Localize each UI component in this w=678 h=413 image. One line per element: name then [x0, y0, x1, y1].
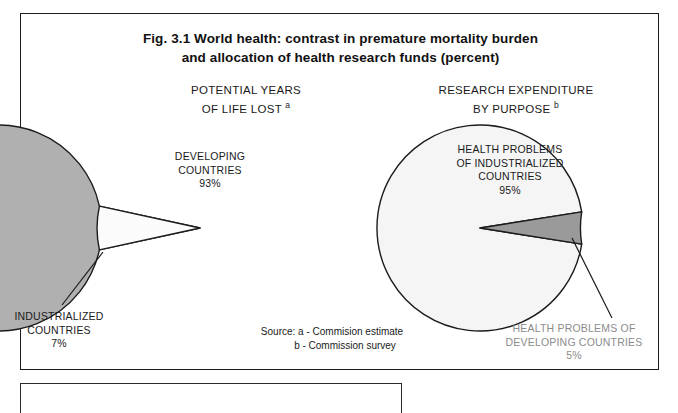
pie-label-developing-line-1: DEVELOPING	[140, 150, 280, 164]
secondary-frame-partial	[20, 383, 402, 413]
panel-heading-left-line-1: POTENTIAL YEARS	[131, 83, 361, 98]
callout-label-health-problems-developing: HEALTH PROBLEMS OF DEVELOPING COUNTRIES …	[480, 322, 668, 363]
panel-heading-left-line-2: OF LIFE LOST a	[131, 98, 361, 117]
panel-heading-research-expenditure-by-purpose: RESEARCH EXPENDITURE BY PURPOSE b	[391, 83, 641, 117]
pie-label-industrialized-health-line-2: OF INDUSTRIALIZED	[420, 157, 600, 171]
pie-label-developing-line-2: COUNTRIES	[140, 164, 280, 178]
callout-label-industrialized-countries: INDUSTRIALIZED COUNTRIES 7%	[0, 310, 118, 351]
callout-developing-health-line-1: HEALTH PROBLEMS OF	[480, 322, 668, 336]
figure-title: Fig. 3.1 World health: contrast in prema…	[21, 29, 660, 67]
pie-label-industrialized-health-line-3: COUNTRIES	[420, 170, 600, 184]
source-note-line-a: Source: a - Commision estimate	[232, 325, 432, 339]
panel-heading-right-line-2-text: BY PURPOSE	[473, 103, 551, 115]
pie-label-developing-value: 93%	[140, 177, 280, 191]
panel-heading-potential-years-of-life-lost: POTENTIAL YEARS OF LIFE LOST a	[131, 83, 361, 117]
panel-heading-left-line-2-text: OF LIFE LOST	[202, 103, 282, 115]
pie-label-industrialized-health-value: 95%	[420, 184, 600, 198]
panel-heading-left-footnote-marker: a	[285, 100, 290, 110]
figure-title-line-1: Fig. 3.1 World health: contrast in prema…	[21, 29, 660, 48]
panel-heading-right-line-2: BY PURPOSE b	[391, 98, 641, 117]
callout-industrialized-value: 7%	[0, 337, 118, 351]
pie-label-developing-countries: DEVELOPING COUNTRIES 93%	[140, 150, 280, 191]
pie-label-industrialized-health-line-1: HEALTH PROBLEMS	[420, 143, 600, 157]
callout-developing-health-value: 5%	[480, 349, 668, 363]
figure-title-line-2: and allocation of health research funds …	[21, 48, 660, 67]
callout-industrialized-line-2: COUNTRIES	[0, 324, 118, 338]
source-note: Source: a - Commision estimate b - Commi…	[232, 325, 432, 353]
panel-heading-right-line-1: RESEARCH EXPENDITURE	[391, 83, 641, 98]
pie-label-health-problems-industrialized: HEALTH PROBLEMS OF INDUSTRIALIZED COUNTR…	[420, 143, 600, 197]
panel-heading-right-footnote-marker: b	[554, 100, 559, 110]
callout-industrialized-line-1: INDUSTRIALIZED	[0, 310, 118, 324]
source-note-line-b: b - Commission survey	[232, 339, 432, 353]
callout-developing-health-line-2: DEVELOPING COUNTRIES	[480, 336, 668, 350]
